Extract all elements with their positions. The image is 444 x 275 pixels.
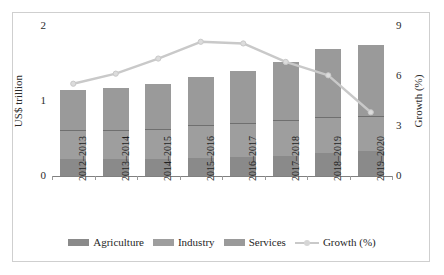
x-axis-tick-label: 2017–2018 [290,136,301,181]
legend-color-swatch [68,239,89,246]
x-axis-tickmark [350,176,351,180]
x-axis-tickmark [95,176,96,180]
legend-item[interactable]: Industry [153,236,215,248]
x-axis-tickmark [222,176,223,180]
bar-segment-services [145,84,171,129]
x-axis-tick-label: 2014–2015 [162,136,173,181]
legend-item[interactable]: Agriculture [68,236,144,248]
bar-segment-services [273,62,299,120]
y-axis-left-tick-0: 0 [26,169,46,181]
bar-segment-services [188,77,214,125]
x-axis-tickmark [307,176,308,180]
y-axis-left-title: US$ trillion [12,61,24,141]
x-axis-tick-label: 2016–2017 [247,136,258,181]
chart-legend: AgricultureIndustryServicesGrowth (%) [0,236,444,248]
bar-segment-services [358,45,384,116]
chart-figure: 2 1 0 9 6 3 0 US$ trillion Growth (%) 20… [0,0,444,275]
bar-segment-services [230,71,256,123]
legend-item[interactable]: Growth (%) [295,236,376,248]
legend-label: Agriculture [93,236,144,248]
x-axis-tickmark [392,176,393,180]
y-axis-left-tick-2: 2 [26,19,46,31]
y-axis-left-tick-1: 1 [26,94,46,106]
legend-item[interactable]: Services [224,236,286,248]
bar-segment-services [60,90,86,130]
legend-label: Growth (%) [323,236,376,248]
bar-segment-services [103,88,129,130]
x-axis-tick-label: 2018–2019 [332,136,343,181]
legend-label: Industry [178,236,215,248]
x-axis-tick-label: 2012–2013 [77,136,88,181]
bar-segment-services [315,49,341,117]
x-axis-tickmark [52,176,53,180]
y-axis-right-title: Growth (%) [412,61,424,141]
legend-line-swatch [295,239,319,246]
x-axis-tickmark [180,176,181,180]
legend-label: Services [249,236,286,248]
x-axis-tickmark [137,176,138,180]
x-axis-tick-label: 2015–2016 [205,136,216,181]
y-axis-right-tick-0: 0 [396,169,416,181]
legend-color-swatch [153,239,174,246]
x-axis-tick-label: 2019–2020 [375,136,386,181]
legend-color-swatch [224,239,245,246]
x-axis-tickmark [265,176,266,180]
x-axis-tick-label: 2013–2014 [120,136,131,181]
y-axis-right-tick-9: 9 [396,19,416,31]
